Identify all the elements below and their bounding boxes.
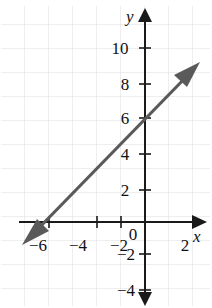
x-tick-label-2: 2 bbox=[178, 237, 192, 254]
x-tick-label--4: −4 bbox=[66, 237, 90, 254]
y-tick-label-2: 2 bbox=[118, 182, 132, 199]
coordinate-graph: −6 −4 −2 2 10 8 6 4 2 −2 −4 0 y x bbox=[0, 0, 212, 308]
y-tick-label--4: −4 bbox=[114, 282, 138, 299]
x-axis-label: x bbox=[193, 228, 201, 245]
origin-label: 0 bbox=[126, 226, 140, 243]
graph-canvas bbox=[0, 0, 212, 308]
grid-lines bbox=[1, 6, 210, 306]
y-tick-label-4: 4 bbox=[118, 146, 132, 163]
y-tick-label-6: 6 bbox=[118, 110, 132, 127]
y-tick-label-8: 8 bbox=[118, 76, 132, 93]
y-tick-label-10: 10 bbox=[108, 40, 132, 57]
y-axis-label: y bbox=[126, 8, 134, 25]
grid-rect bbox=[1, 6, 210, 306]
x-tick-label--6: −6 bbox=[26, 237, 50, 254]
y-tick-label--2: −2 bbox=[114, 246, 138, 263]
